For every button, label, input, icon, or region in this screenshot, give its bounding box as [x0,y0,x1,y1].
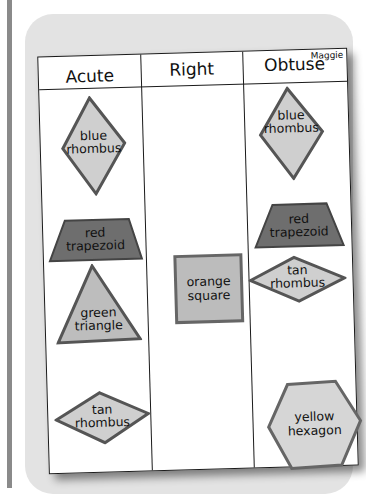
label-line2: rhombus [248,275,346,291]
shape-tan-rhombus: tan rhombus [248,254,347,305]
shape-orange-square: orange square [172,252,246,326]
label-line1: orange [172,274,244,289]
shape-yellow-hexagon: yellow hexagon [265,378,363,471]
shape-blue-rhombus: blue rhombus [59,95,128,197]
column-acute: Acute blue rhombus red trapezoid gr [38,55,153,474]
label-line2: hexagon [267,422,363,438]
shape-tan-rhombus: tan rhombus [54,389,151,446]
column-obtuse: Obtuse blue rhombus red trapezoid t [242,49,358,468]
shape-green-triangle: green triangle [54,263,142,345]
column-title-obtuse: Obtuse [242,53,347,76]
label-line2: trapezoid [253,224,345,240]
column-title-right: Right [140,58,243,81]
label-line2: rhombus [54,414,150,430]
label-line2: trapezoid [47,238,143,254]
label-line2: rhombus [258,120,324,135]
column-right: Right orange square [140,52,255,471]
shape-red-trapezoid: red trapezoid [252,201,345,250]
background-panel: Maggie Acute blue rhombus red trapezoid [25,14,353,494]
sorting-sheet: Maggie Acute blue rhombus red trapezoid [37,48,359,474]
column-title-acute: Acute [39,65,142,88]
shape-blue-rhombus: blue rhombus [257,85,326,181]
label-line2: triangle [56,318,142,333]
label-line2: rhombus [61,141,127,156]
shape-red-trapezoid: red trapezoid [47,217,144,264]
label-line2: square [173,288,245,303]
side-bar [7,0,12,488]
